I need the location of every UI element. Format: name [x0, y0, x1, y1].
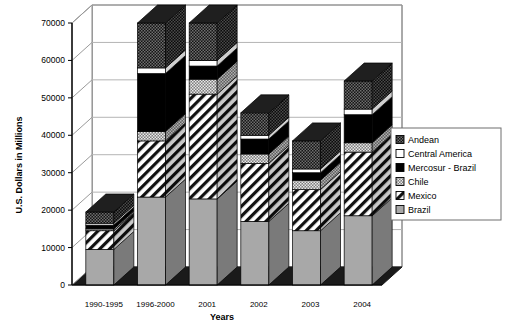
bar-segment[interactable]: [86, 231, 114, 250]
bar-segment[interactable]: [189, 66, 217, 79]
bar-segment[interactable]: [293, 231, 321, 285]
y-tick-label: 20000: [41, 205, 65, 215]
y-tick-label: 0: [60, 280, 65, 290]
y-tick-label: 10000: [41, 243, 65, 253]
stacked-column-chart: 010000200003000040000500006000070000 199…: [0, 0, 508, 329]
legend-label[interactable]: Andean: [408, 135, 439, 145]
bar-segment[interactable]: [344, 216, 372, 285]
bar-segment[interactable]: [293, 190, 321, 231]
chart-container: 010000200003000040000500006000070000 199…: [0, 0, 508, 329]
bar-segment[interactable]: [138, 197, 166, 285]
x-tick-label: 1996-2000: [136, 300, 175, 309]
bar-stack[interactable]: [344, 63, 392, 285]
x-tick-label: 1990-1995: [85, 300, 124, 309]
bar-segment[interactable]: [241, 113, 269, 135]
bar-segment[interactable]: [344, 115, 372, 143]
legend-swatch: [396, 206, 404, 214]
legend-label[interactable]: Mercosur - Brazil: [408, 163, 476, 173]
bar-segment[interactable]: [241, 163, 269, 221]
bar-segment[interactable]: [138, 23, 166, 68]
x-tick-label: 2003: [302, 300, 320, 309]
bar-stack[interactable]: [189, 5, 237, 285]
legend-label[interactable]: Central America: [408, 149, 472, 159]
bar-segment-side: [217, 76, 237, 199]
legend-label[interactable]: Brazil: [408, 205, 431, 215]
y-tick-label: 50000: [41, 93, 65, 103]
bar-segment[interactable]: [138, 141, 166, 197]
x-tick-label: 2004: [353, 300, 371, 309]
legend-swatch: [396, 192, 404, 200]
bar-segment[interactable]: [86, 249, 114, 285]
x-tick-label: 2001: [198, 300, 216, 309]
bar-segment[interactable]: [189, 23, 217, 60]
bar-segment[interactable]: [344, 109, 372, 115]
legend-swatch: [396, 164, 404, 172]
bar-segment[interactable]: [138, 132, 166, 141]
y-tick-label: 60000: [41, 55, 65, 65]
bar-segment[interactable]: [189, 94, 217, 199]
bar-stack[interactable]: [241, 95, 289, 285]
legend-swatch: [396, 136, 404, 144]
bar-segment[interactable]: [293, 141, 321, 169]
legend-swatch: [396, 178, 404, 186]
bar-segment[interactable]: [86, 225, 114, 229]
bar-segment[interactable]: [241, 154, 269, 163]
bar-segment[interactable]: [293, 169, 321, 173]
bar-segment[interactable]: [189, 79, 217, 94]
bar-segment[interactable]: [241, 221, 269, 285]
legend-label[interactable]: Mexico: [408, 191, 437, 201]
bar-segment-side: [166, 179, 186, 285]
bar-segment[interactable]: [344, 152, 372, 216]
bar-segment[interactable]: [86, 212, 114, 223]
bar-stack[interactable]: [86, 194, 134, 285]
x-axis: 1990-19951996-20002001200220032004: [72, 285, 382, 309]
bar-segment[interactable]: [241, 139, 269, 154]
bar-segment[interactable]: [138, 74, 166, 132]
bar-segment[interactable]: [189, 199, 217, 285]
y-tick-label: 70000: [41, 18, 65, 28]
bar-segment[interactable]: [189, 60, 217, 66]
legend-swatch: [396, 150, 404, 158]
bar-segment[interactable]: [344, 143, 372, 152]
x-axis-title: Years: [210, 312, 234, 322]
y-axis-title: U.S. Dollars in Millions: [14, 116, 24, 213]
bar-segment[interactable]: [241, 135, 269, 139]
bar-segment[interactable]: [344, 81, 372, 109]
bar-stack[interactable]: [293, 123, 341, 285]
bar-segment[interactable]: [293, 173, 321, 180]
bar-segment[interactable]: [138, 68, 166, 74]
x-tick-label: 2002: [250, 300, 268, 309]
y-tick-label: 40000: [41, 130, 65, 140]
legend-label[interactable]: Chile: [408, 177, 429, 187]
bar-segment[interactable]: [293, 180, 321, 189]
y-tick-label: 30000: [41, 168, 65, 178]
bar-stack[interactable]: [138, 5, 186, 285]
chart-legend: AndeanCentral AmericaMercosur - BrazilCh…: [391, 128, 501, 220]
